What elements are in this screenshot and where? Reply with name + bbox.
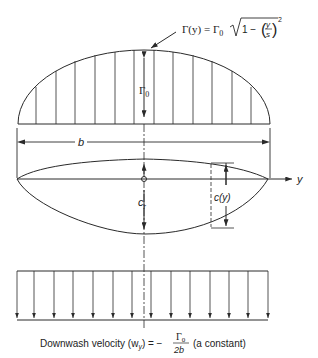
svg-text:Γ(y) = Γ0: Γ(y) = Γ0 [182,23,223,38]
downwash-frac-den: 2b [173,345,184,355]
circulation-distribution [18,32,270,124]
formula-exponent: 2 [278,16,282,23]
root-chord-label: cr [138,196,147,210]
span-label: b [78,136,84,148]
downwash-prefix: Downwash velocity (w [40,338,139,349]
formula-lhs: Γ(y) = Γ [182,23,219,36]
downwash-suffix: (a constant) [193,338,246,349]
formula-rad-prefix: 1 − [242,24,256,35]
formula-frac-num: y [265,20,271,29]
leading-edge [17,159,268,179]
downwash-frac-num: Γ0 [176,331,186,344]
downwash-arrows [17,271,268,318]
local-chord-label: c(y) [214,192,231,203]
elliptic-wing-diagram: Γ(y) = Γ0 1 − ( y s ) 2 Γ0 b [0,0,318,358]
y-axis-label: y [296,173,304,185]
svg-text:): ) [272,21,277,38]
svg-text:Downwash velocity (wy) = −: Downwash velocity (wy) = − [40,338,163,351]
circulation-formula: Γ(y) = Γ0 1 − ( y s ) 2 [182,16,282,39]
formula-leader-line [151,32,176,48]
formula-lhs-sub: 0 [219,29,223,38]
wing-planform [17,124,292,330]
downwash-caption: Downwash velocity (wy) = − Γ0 2b (a cons… [40,331,246,355]
formula-frac-den: s [266,30,270,39]
downwash-distribution [17,271,268,320]
